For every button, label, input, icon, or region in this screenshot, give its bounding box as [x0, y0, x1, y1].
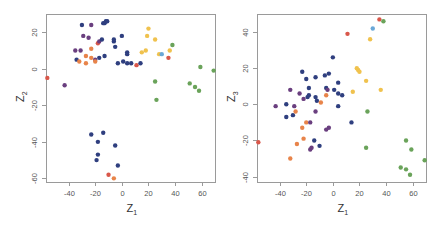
- data-point: [288, 156, 292, 160]
- data-point: [78, 48, 82, 52]
- y-tick-label: -60: [30, 173, 39, 184]
- data-point: [116, 61, 120, 65]
- data-point: [80, 23, 84, 27]
- data-point: [198, 65, 202, 69]
- data-point: [288, 88, 292, 92]
- data-point: [146, 26, 150, 30]
- data-point: [409, 147, 413, 151]
- data-point: [125, 52, 129, 56]
- y-tick-label: 0: [241, 102, 250, 106]
- y-axis: 200-20-40-60: [30, 28, 46, 184]
- data-point: [371, 26, 375, 30]
- data-point: [308, 120, 312, 124]
- data-point: [166, 56, 170, 60]
- y-tick-label: 20: [30, 28, 39, 36]
- data-point: [300, 70, 304, 74]
- data-point: [300, 126, 304, 130]
- data-point: [295, 142, 299, 146]
- data-point: [291, 113, 295, 117]
- data-point: [153, 37, 157, 41]
- data-point: [364, 145, 368, 149]
- scatter-plot-z1-z3: -40-200204060 40200-20-40 Z1 Z3: [225, 15, 427, 217]
- x-tick-label: -40: [275, 189, 286, 198]
- data-point: [364, 79, 368, 83]
- data-point: [319, 100, 323, 104]
- data-point: [324, 93, 328, 97]
- y-axis-title: Z3: [225, 91, 239, 102]
- data-point: [340, 93, 344, 97]
- x-axis: -40-200204060: [275, 182, 418, 198]
- data-point: [315, 99, 319, 103]
- data-point: [404, 138, 408, 142]
- y-axis-title: Z2: [14, 91, 28, 102]
- x-tick-label: 20: [144, 189, 152, 198]
- x-tick-label: 40: [171, 189, 179, 198]
- plot-frame: [47, 15, 216, 183]
- data-point: [129, 61, 133, 65]
- data-point: [313, 109, 317, 113]
- y-tick-label: 0: [30, 67, 39, 71]
- data-point: [301, 136, 305, 140]
- data-point: [349, 120, 353, 124]
- data-point: [273, 104, 277, 108]
- x-tick-label: -20: [90, 189, 101, 198]
- y-tick-label: -20: [30, 100, 39, 111]
- data-point: [293, 109, 297, 113]
- data-point: [327, 71, 331, 75]
- y-tick-label: -40: [30, 137, 39, 148]
- data-point: [113, 143, 117, 147]
- data-point: [304, 120, 308, 124]
- data-point: [120, 34, 124, 38]
- data-point: [381, 19, 385, 23]
- data-point: [336, 91, 340, 95]
- data-point: [168, 48, 172, 52]
- data-point: [365, 109, 369, 113]
- data-point: [211, 68, 215, 72]
- data-point: [377, 17, 381, 21]
- data-point: [86, 36, 90, 40]
- data-point: [292, 104, 296, 108]
- x-tick-label: 60: [409, 189, 417, 198]
- data-point: [345, 32, 349, 36]
- x-axis-title: Z1: [338, 202, 349, 216]
- x-tick-label: 0: [120, 189, 124, 198]
- data-point: [404, 167, 408, 171]
- y-axis: 40200-20-40: [241, 28, 257, 183]
- data-point: [309, 145, 313, 149]
- data-point: [62, 83, 66, 87]
- data-point: [170, 43, 174, 47]
- data-points: [256, 17, 427, 177]
- data-point: [45, 76, 49, 80]
- data-point: [317, 144, 321, 148]
- data-point: [153, 79, 157, 83]
- data-point: [96, 152, 100, 156]
- data-point: [301, 97, 305, 101]
- data-point: [134, 63, 138, 67]
- plot-frame: [258, 15, 427, 183]
- data-point: [94, 158, 98, 162]
- data-point: [408, 173, 412, 177]
- data-point: [379, 88, 383, 92]
- x-axis: -40-200204060: [64, 182, 207, 198]
- data-point: [77, 59, 81, 63]
- data-point: [84, 54, 88, 58]
- data-point: [125, 61, 129, 65]
- data-point: [100, 37, 104, 41]
- data-point: [357, 70, 361, 74]
- data-point: [84, 61, 88, 65]
- y-tick-label: -20: [241, 135, 250, 146]
- data-point: [327, 126, 331, 130]
- y-tick-label: 40: [241, 28, 250, 36]
- x-tick-label: 20: [355, 189, 363, 198]
- data-point: [312, 138, 316, 142]
- scatter-plot-z1-z2: -40-200204060 200-20-40-60 Z1 Z2: [14, 15, 216, 217]
- data-point: [81, 34, 85, 38]
- data-point: [304, 77, 308, 81]
- data-point: [93, 59, 97, 63]
- data-points: [45, 19, 216, 180]
- data-point: [89, 46, 93, 50]
- data-point: [313, 75, 317, 79]
- data-point: [106, 172, 110, 176]
- x-tick-label: 60: [198, 189, 206, 198]
- data-point: [105, 19, 109, 23]
